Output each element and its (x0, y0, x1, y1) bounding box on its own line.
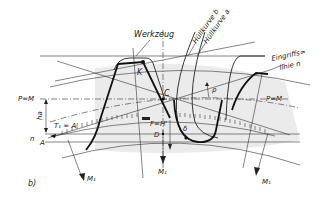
fh-marker (142, 117, 150, 120)
label-a: A (39, 139, 45, 147)
label-eingriffs: Eingriffs= (271, 48, 307, 63)
point-k (141, 60, 145, 64)
label-d: D (154, 131, 160, 139)
label-m1-left: M₁ (87, 175, 96, 183)
label-m1-center: M₁ (158, 168, 167, 176)
point-d (162, 133, 164, 135)
ha-arrow-top (44, 99, 48, 104)
ha-arrow-bottom (44, 128, 48, 133)
label-pm-right: P=M (266, 95, 282, 103)
label-werkzeug: Werkzeug (134, 30, 174, 39)
m1-arrow-center-head (160, 156, 166, 164)
label-ha: ha (36, 111, 44, 120)
label-rho: ρ (212, 86, 217, 94)
label-m1-right: M₁ (262, 178, 271, 186)
label-t1: T₁ = A' (54, 122, 78, 130)
label-linie-n: linie n (279, 60, 301, 72)
werkzeug-leader (136, 40, 150, 56)
label-pm-left: P=M (18, 95, 34, 103)
m1-arrow-left-head (79, 173, 85, 181)
m1-arrow-right-head (254, 167, 260, 176)
panel-label: b) (28, 179, 36, 188)
point-delta (184, 136, 187, 139)
label-k: K (137, 68, 143, 77)
m1-arrow-left-line (68, 140, 82, 178)
point-c (162, 98, 165, 101)
label-n: n (30, 135, 34, 143)
label-c: C (164, 89, 170, 98)
gear-meshing-diagram: Werkzeug Hüllkurve b Hüllkurve a Eingrif… (0, 0, 328, 200)
label-fh: F=H' (150, 120, 167, 128)
label-delta: δ (183, 125, 187, 133)
